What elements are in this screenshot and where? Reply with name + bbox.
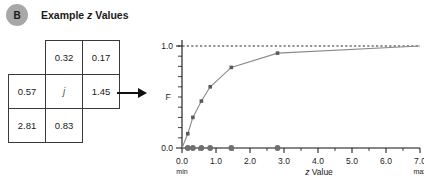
grid-cell: 0.57 (9, 75, 46, 109)
empirical-cdf-curve-point (200, 99, 204, 103)
rug-observations-point (190, 145, 196, 151)
x-axis-title: z Value (304, 167, 333, 176)
empirical-cdf-curve-point (230, 66, 234, 70)
panel-b: B Example z Values 0.32 0.17 0.57 j 1.45… (0, 0, 429, 182)
x-tick-label: 7.0 (414, 156, 424, 166)
ecdf-chart: 0.01.0F0.01.02.03.04.05.06.07.0minmaxz V… (152, 24, 424, 176)
rug-observations-point (185, 145, 191, 151)
ecdf-chart-svg: 0.01.0F0.01.02.03.04.05.06.07.0minmaxz V… (152, 24, 424, 176)
grid-cell: 0.83 (46, 109, 83, 143)
x-min-label: min (176, 168, 187, 175)
grid-cell: 0.17 (83, 41, 120, 75)
title-suffix: Values (92, 9, 128, 21)
panel-badge: B (6, 4, 28, 26)
arrow-head (138, 88, 147, 98)
empirical-cdf-curve-point (191, 116, 195, 120)
y-tick-label: 1.0 (161, 41, 173, 51)
panel-header: B Example z Values (6, 4, 129, 26)
grid-cell: 0.32 (46, 41, 83, 75)
page-title: Example z Values (41, 9, 129, 21)
x-tick-label: 0.0 (176, 156, 188, 166)
x-tick-label: 5.0 (346, 156, 358, 166)
rug-observations-point (228, 145, 234, 151)
grid-cell-center: j (46, 75, 83, 109)
x-tick-label: 2.0 (244, 156, 256, 166)
x-max-label: max (413, 168, 424, 175)
empirical-cdf-curve-line (182, 46, 420, 148)
z-value-neighborhood-grid: 0.32 0.17 0.57 j 1.45 2.81 0.83 (8, 40, 120, 143)
x-tick-label: 4.0 (312, 156, 324, 166)
table-row: 0.57 j 1.45 (9, 75, 120, 109)
value-grid-container: 0.32 0.17 0.57 j 1.45 2.81 0.83 (8, 40, 120, 143)
rug-observations-point (207, 145, 213, 151)
flow-arrow-icon (117, 88, 147, 98)
grid-cell-empty (83, 109, 120, 143)
x-tick-label: 3.0 (278, 156, 290, 166)
title-prefix: Example (41, 9, 87, 21)
grid-cell-empty (9, 41, 46, 75)
empirical-cdf-curve-point (186, 132, 190, 136)
empirical-cdf-curve-point (208, 85, 212, 89)
panel-badge-letter: B (13, 10, 20, 21)
y-tick-label: 0.0 (161, 143, 173, 153)
x-tick-label: 1.0 (210, 156, 222, 166)
table-row: 0.32 0.17 (9, 41, 120, 75)
empirical-cdf-curve-point (276, 51, 280, 55)
grid-cell: 1.45 (83, 75, 120, 109)
x-tick-label: 6.0 (380, 156, 392, 166)
rug-observations-point (198, 145, 204, 151)
arrow-shaft (117, 92, 139, 94)
table-row: 2.81 0.83 (9, 109, 120, 143)
y-axis-title: F (165, 92, 170, 102)
grid-cell: 2.81 (9, 109, 46, 143)
rug-observations-point (275, 145, 281, 151)
